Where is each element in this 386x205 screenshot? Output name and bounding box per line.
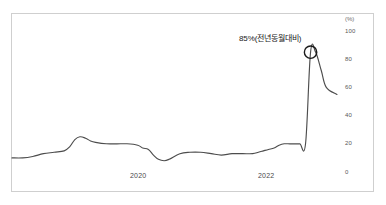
y-tick-label-100: 100 [345,28,356,34]
y-tick-label-40: 40 [345,112,352,118]
y-axis-unit-label: (%) [345,16,354,22]
y-tick-label-0: 0 [345,169,349,175]
y-tick-label-60: 60 [345,84,352,90]
data-line-series-value [12,44,337,161]
y-tick-label-80: 80 [345,56,352,62]
peak-annotation-label: 85%(전년동월대비) [239,35,301,43]
chart-figure: (%) 100 80 60 40 20 0 2020 2022 85%(전년동월… [0,0,386,205]
x-tick-label-2022: 2022 [258,172,274,179]
x-tick-label-2020: 2020 [130,172,146,179]
y-tick-label-20: 20 [345,140,352,146]
